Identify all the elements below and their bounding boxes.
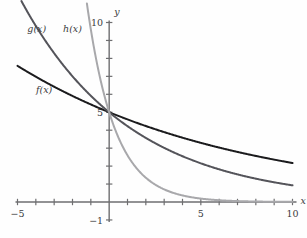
exponential-decay-chart: −5510 x 105−1 y f(x)g(x)h(x) <box>0 0 307 238</box>
y-tick-label: −1 <box>89 215 103 226</box>
h-label: h(x) <box>63 23 82 34</box>
x-axis-tick-labels: −5510 <box>10 208 298 219</box>
x-axis-group: −5510 x <box>10 195 306 219</box>
x-tick-label: 10 <box>286 208 298 219</box>
f-label: f(x) <box>35 84 53 95</box>
y-tick-label: 10 <box>91 17 103 28</box>
y-axis-tick-labels: 105−1 <box>89 17 103 226</box>
g-label: g(x) <box>27 23 46 34</box>
curve-hx <box>87 3 293 201</box>
curve-series-group <box>18 1 293 202</box>
x-axis-label: x <box>301 195 307 206</box>
curve-fx <box>18 66 293 163</box>
x-tick-label: 5 <box>198 208 204 219</box>
y-axis-label: y <box>113 6 120 17</box>
plot-area: −5510 x 105−1 y f(x)g(x)h(x) <box>0 0 307 238</box>
curve-label-group: f(x)g(x)h(x) <box>27 23 82 95</box>
x-tick-label: −5 <box>10 208 24 219</box>
